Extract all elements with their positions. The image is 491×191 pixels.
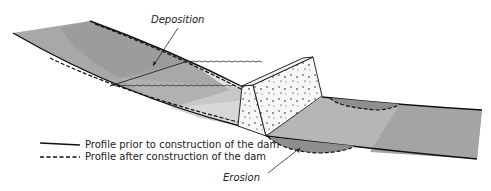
deposition-label: Deposition	[151, 14, 204, 25]
diagram-artwork	[0, 0, 491, 191]
erosion-pointer	[268, 148, 300, 173]
erosion-label: Erosion	[223, 172, 260, 183]
legend-solid-label: Profile prior to construction of the dam	[85, 139, 279, 150]
dam-profile-diagram: Deposition Erosion Profile prior to cons…	[0, 0, 491, 191]
legend-dashed-label: Profile after construction of the dam	[85, 151, 266, 162]
water-surface-upper	[190, 61, 262, 62]
legend-solid-line	[40, 143, 80, 145]
